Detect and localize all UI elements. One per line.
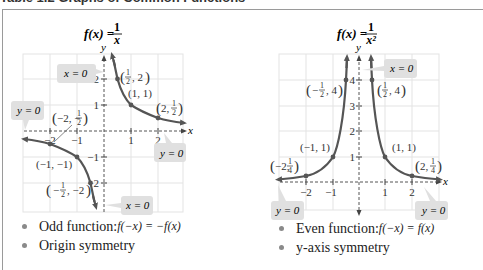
point-labels-reciprocal: ( 1 2 , 2 ) (1, 1) ( 2, 1 2 ) ( −2, − 1 … <box>36 68 183 199</box>
svg-text:, 2: , 2 <box>132 71 143 83</box>
svg-text:2: 2 <box>409 186 415 198</box>
point-labels-inverse-square: ( − 1 2 , 4 ) ( 1 2 , 4 ) (−1, 1) (1, 1)… <box>270 81 442 175</box>
svg-text:−1: −1 <box>87 151 99 163</box>
bullet-icon <box>22 224 27 229</box>
svg-text:1: 1 <box>288 157 292 166</box>
svg-text:1: 1 <box>61 181 65 190</box>
svg-text:x²: x² <box>365 33 376 47</box>
svg-text:f(x) =: f(x) = <box>84 26 114 41</box>
svg-text:1: 1 <box>128 134 134 146</box>
svg-text:): ) <box>437 158 442 175</box>
property-odd-function: Odd function: f(−x) = −f(x) <box>20 217 181 236</box>
svg-text:3: 3 <box>350 100 356 112</box>
svg-text:1: 1 <box>94 99 100 111</box>
bullet-icon <box>22 243 27 248</box>
svg-text:1: 1 <box>431 157 435 166</box>
y-axis-label: y <box>355 41 361 53</box>
svg-text:1: 1 <box>126 68 130 77</box>
svg-text:1: 1 <box>383 81 387 90</box>
svg-text:1: 1 <box>368 20 374 34</box>
svg-text:1: 1 <box>114 20 120 34</box>
bullet-icon <box>279 226 284 231</box>
svg-text:, 4: , 4 <box>326 84 338 96</box>
svg-text:(: ( <box>306 82 311 99</box>
chart-inverse-square: f(x) = 1 x² x y −2 −1 <box>270 20 448 220</box>
svg-text:, 4: , 4 <box>389 84 401 96</box>
svg-text:(−1, 1): (−1, 1) <box>300 141 330 154</box>
svg-text:2: 2 <box>172 108 176 117</box>
callout-y0-bottom-left: y = 0 <box>271 185 304 220</box>
svg-text:1: 1 <box>77 109 81 118</box>
svg-text:): ) <box>86 182 91 199</box>
svg-text:f(x) =: f(x) = <box>337 26 367 41</box>
svg-text:−: − <box>53 184 59 196</box>
chart-reciprocal: f(x) = 1 x x y −2 <box>11 20 193 215</box>
svg-text:y = 0: y = 0 <box>159 147 184 159</box>
callout-y0-left: y = 0 <box>11 101 44 130</box>
svg-text:2: 2 <box>126 77 130 86</box>
svg-text:(1, 1): (1, 1) <box>392 141 416 154</box>
svg-text:(: ( <box>120 69 125 86</box>
svg-text:4: 4 <box>288 166 292 175</box>
property-origin-symmetry: Origin symmetry <box>20 236 181 255</box>
svg-text:): ) <box>178 100 183 117</box>
svg-text:2,: 2, <box>161 102 170 114</box>
svg-text:4: 4 <box>350 74 356 86</box>
svg-text:(: ( <box>377 82 382 99</box>
svg-text:): ) <box>83 110 88 127</box>
svg-text:x = 0: x = 0 <box>125 199 150 211</box>
x-axis-label: x <box>442 175 448 187</box>
svg-text:): ) <box>401 82 406 99</box>
svg-text:(: ( <box>46 182 51 199</box>
svg-text:x = 0: x = 0 <box>63 67 88 79</box>
svg-text:2,: 2, <box>420 160 429 172</box>
svg-text:4: 4 <box>431 166 435 175</box>
y-axis-label: y <box>100 41 106 53</box>
svg-text:): ) <box>294 158 299 175</box>
svg-text:x: x <box>113 33 120 47</box>
svg-text:x = 0: x = 0 <box>389 62 414 74</box>
svg-text:−2: −2 <box>300 186 312 198</box>
svg-text:): ) <box>145 69 150 86</box>
property-y-axis-symmetry: y-axis symmetry <box>277 238 434 257</box>
svg-text:2: 2 <box>77 118 81 127</box>
properties-reciprocal: Odd function: f(−x) = −f(x) Origin symme… <box>20 217 181 255</box>
svg-text:(1, 1): (1, 1) <box>128 87 152 100</box>
x-axis-label: x <box>187 124 193 136</box>
svg-text:1: 1 <box>382 186 388 198</box>
svg-text:−1: −1 <box>71 134 83 146</box>
svg-text:y = 0: y = 0 <box>421 204 446 216</box>
svg-text:y = 0: y = 0 <box>16 104 41 116</box>
property-even-function: Even function: f(−x) = f(x) <box>277 219 434 238</box>
svg-text:1: 1 <box>350 151 356 163</box>
svg-text:2: 2 <box>350 125 356 137</box>
svg-text:2: 2 <box>61 190 65 199</box>
svg-text:−: − <box>312 84 318 96</box>
bullet-icon <box>279 245 284 250</box>
svg-text:2: 2 <box>320 90 324 99</box>
svg-text:1: 1 <box>172 99 176 108</box>
svg-text:y = 0: y = 0 <box>275 204 300 216</box>
curve-reciprocal-negative-end <box>93 196 96 207</box>
svg-text:−1: −1 <box>325 186 337 198</box>
svg-text:1: 1 <box>320 81 324 90</box>
callout-y0-bottom-right: y = 0 <box>415 187 448 220</box>
svg-text:, −2: , −2 <box>67 184 84 196</box>
properties-inverse-square: Even function: f(−x) = f(x) y-axis symme… <box>277 219 434 257</box>
svg-text:(−1, −1): (−1, −1) <box>36 158 73 171</box>
svg-text:2: 2 <box>383 90 387 99</box>
curve-reciprocal-positive-start <box>112 55 115 66</box>
svg-text:): ) <box>338 82 343 99</box>
